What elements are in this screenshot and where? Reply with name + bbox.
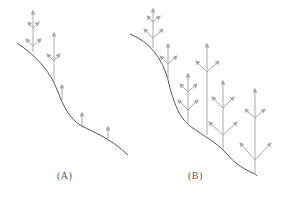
panel-a [17,12,128,155]
shoots-a [27,12,108,142]
panel-a-label: (A) [57,170,72,181]
shoots-b [145,10,270,175]
stem-a [17,43,128,155]
diagram-canvas [0,0,288,200]
panel-b [130,10,270,176]
panel-b-label: (B) [188,170,203,181]
